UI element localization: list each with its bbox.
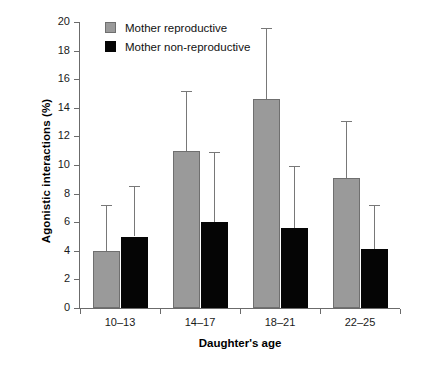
error-bar-cap — [289, 166, 300, 167]
error-bar-cap — [101, 205, 112, 206]
bar-reproductive — [173, 151, 200, 308]
y-axis-tick: 0 — [74, 308, 79, 309]
legend-item-label: Mother non-reproductive — [125, 41, 250, 53]
x-axis-tick — [240, 309, 241, 314]
y-axis-tick-label: 4 — [64, 244, 70, 256]
bar-chart: Agonistic interactions (%) 0246810121416… — [0, 0, 448, 365]
x-axis-title: Daughter's age — [80, 337, 400, 349]
x-axis-category-label: 22–25 — [345, 316, 376, 328]
error-bar-line — [374, 205, 375, 249]
x-axis-category-label: 10–13 — [105, 316, 136, 328]
error-bar-cap — [341, 121, 352, 122]
error-bar-line — [266, 28, 267, 100]
y-axis-tick: 16 — [74, 79, 79, 80]
y-axis-tick-label: 12 — [58, 129, 70, 141]
error-bar-line — [294, 166, 295, 227]
legend-item: Mother reproductive — [105, 18, 250, 37]
legend-item-label: Mother reproductive — [125, 22, 227, 34]
x-axis-tick — [320, 309, 321, 314]
error-bar-cap — [369, 205, 380, 206]
y-axis-tick: 10 — [74, 165, 79, 166]
y-axis-tick-label: 2 — [64, 272, 70, 284]
error-bar-line — [186, 91, 187, 151]
y-axis-tick: 6 — [74, 222, 79, 223]
bar-non-reproductive — [281, 228, 308, 308]
error-bar-line — [106, 205, 107, 251]
legend-item: Mother non-reproductive — [105, 37, 250, 56]
y-axis-tick-label: 0 — [64, 301, 70, 313]
x-axis-category-label: 18–21 — [265, 316, 296, 328]
y-axis-tick: 12 — [74, 136, 79, 137]
error-bar-line — [134, 186, 135, 236]
error-bar-line — [346, 121, 347, 178]
x-axis-tick — [400, 309, 401, 314]
y-axis-title: Agonistic interactions (%) — [40, 46, 52, 296]
y-axis-tick-label: 6 — [64, 215, 70, 227]
y-axis-tick: 20 — [74, 22, 79, 23]
x-axis-category-label: 14–17 — [185, 316, 216, 328]
bar-non-reproductive — [361, 249, 388, 308]
y-axis-tick-label: 20 — [58, 15, 70, 27]
x-axis-tick — [80, 309, 81, 314]
legend-swatch-nonrep — [105, 41, 116, 52]
error-bar-cap — [129, 186, 140, 187]
error-bar-cap — [181, 91, 192, 92]
y-axis-tick-label: 18 — [58, 44, 70, 56]
y-axis-tick: 8 — [74, 194, 79, 195]
error-bar-line — [214, 152, 215, 222]
y-axis-tick-label: 14 — [58, 101, 70, 113]
bar-reproductive — [333, 178, 360, 308]
y-axis-tick: 2 — [74, 279, 79, 280]
y-axis-tick: 18 — [74, 51, 79, 52]
bar-non-reproductive — [121, 237, 148, 309]
error-bar-cap — [209, 152, 220, 153]
legend-swatch-rep — [105, 22, 116, 33]
y-axis-tick-label: 8 — [64, 187, 70, 199]
y-axis-tick: 14 — [74, 108, 79, 109]
error-bar-cap — [261, 28, 272, 29]
bar-non-reproductive — [201, 222, 228, 308]
chart-legend: Mother reproductiveMother non-reproducti… — [105, 18, 250, 56]
bar-reproductive — [253, 99, 280, 308]
bar-reproductive — [93, 251, 120, 308]
plot-area — [80, 22, 400, 308]
x-axis-tick — [160, 309, 161, 314]
y-axis-tick-label: 10 — [58, 158, 70, 170]
y-axis-tick: 4 — [74, 251, 79, 252]
y-axis-tick-label: 16 — [58, 72, 70, 84]
